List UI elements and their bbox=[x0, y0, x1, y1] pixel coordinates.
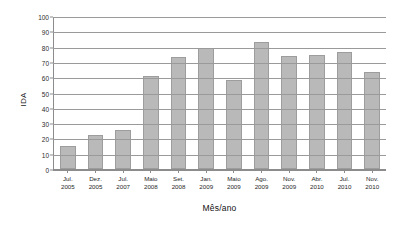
bar[interactable] bbox=[60, 146, 75, 169]
x-axis-tick-label: Jul.2007 bbox=[116, 175, 130, 191]
bar[interactable] bbox=[254, 42, 269, 169]
bar[interactable] bbox=[281, 56, 296, 169]
x-axis-tick: Maio2008 bbox=[137, 170, 165, 191]
gridline bbox=[53, 155, 386, 156]
y-axis-tick-label: 20 bbox=[42, 136, 49, 143]
x-axis-tick: Jul.2007 bbox=[109, 170, 137, 191]
y-axis-tick-label: 30 bbox=[42, 121, 49, 128]
gridline bbox=[53, 139, 386, 140]
y-axis-tick-label: 100 bbox=[38, 14, 49, 21]
x-axis-title: Mês/ano bbox=[53, 203, 386, 213]
gridline bbox=[53, 17, 386, 18]
x-axis-tick: Dez.2005 bbox=[82, 170, 110, 191]
y-axis-tick-label: 70 bbox=[42, 59, 49, 66]
x-axis-tick: Nov.2009 bbox=[275, 170, 303, 191]
gridline bbox=[53, 32, 386, 33]
x-axis-tick: Jul.2005 bbox=[54, 170, 82, 191]
x-axis-tick: Maio2009 bbox=[220, 170, 248, 191]
gridline bbox=[53, 78, 386, 79]
y-axis-tick-label: 40 bbox=[42, 105, 49, 112]
x-axis-tick-label: Dez.2005 bbox=[89, 175, 103, 191]
x-axis-tick: Set.2008 bbox=[165, 170, 193, 191]
bar[interactable] bbox=[171, 57, 186, 169]
x-axis-tick-label: Nov.2010 bbox=[365, 175, 379, 191]
x-axis-tick-label: Jul.2010 bbox=[338, 175, 352, 191]
y-axis-tick-label: 50 bbox=[42, 90, 49, 97]
gridline bbox=[53, 170, 386, 171]
gridline bbox=[53, 63, 386, 64]
x-axis-tick-label: Nov.2009 bbox=[282, 175, 296, 191]
x-axis-tick-label: Ago.2009 bbox=[255, 175, 269, 191]
x-axis-tick-label: Jul.2005 bbox=[61, 175, 75, 191]
x-axis-tick-label: Jan.2009 bbox=[199, 175, 213, 191]
bar[interactable] bbox=[309, 55, 324, 169]
x-axis-tick: Jan.2009 bbox=[192, 170, 220, 191]
bar[interactable] bbox=[88, 135, 103, 169]
y-axis-tick-label: 90 bbox=[42, 29, 49, 36]
gridline bbox=[53, 109, 386, 110]
gridline bbox=[53, 48, 386, 49]
x-axis-tick: Nov.2010 bbox=[358, 170, 386, 191]
x-axis-tick: Abr.2010 bbox=[303, 170, 331, 191]
x-axis-tick-labels: Jul.2005Dez.2005Jul.2007Maio2008Set.2008… bbox=[54, 170, 386, 191]
x-axis-tick-label: Abr.2010 bbox=[310, 175, 324, 191]
x-axis-tick-label: Maio2008 bbox=[144, 175, 158, 191]
bar[interactable] bbox=[337, 52, 352, 169]
x-axis-tick-label: Set.2008 bbox=[172, 175, 186, 191]
y-axis-tick-label: 0 bbox=[45, 167, 49, 174]
x-axis-tick: Jul.2010 bbox=[331, 170, 359, 191]
y-axis-tick-label: 80 bbox=[42, 44, 49, 51]
y-axis-tick-label: 10 bbox=[42, 151, 49, 158]
gridline bbox=[53, 94, 386, 95]
y-axis-tick-label: 60 bbox=[42, 75, 49, 82]
bar[interactable] bbox=[115, 130, 130, 169]
bar-chart-figure: IDA 0102030405060708090100 Jul.2005Dez.2… bbox=[0, 0, 401, 228]
gridline bbox=[53, 124, 386, 125]
x-axis-tick: Ago.2009 bbox=[248, 170, 276, 191]
y-axis-title: IDA bbox=[19, 85, 28, 115]
x-axis-tick-label: Maio2009 bbox=[227, 175, 241, 191]
plot-area: 0102030405060708090100 bbox=[53, 17, 386, 170]
